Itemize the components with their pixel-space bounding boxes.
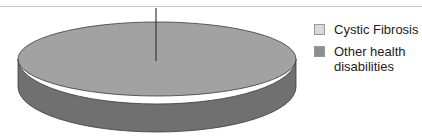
legend-swatch-icon: [314, 24, 325, 35]
legend-label: Other health disabilities: [334, 44, 422, 74]
legend-item-cystic-fibrosis: Cystic Fibrosis: [314, 22, 422, 37]
pie-slice-top-other: [18, 22, 296, 96]
legend-swatch-icon: [314, 46, 325, 57]
pie-chart: [0, 0, 300, 136]
legend: Cystic Fibrosis Other health disabilitie…: [314, 22, 422, 81]
legend-label: Cystic Fibrosis: [334, 22, 419, 37]
pie-3d-graphic: [0, 0, 300, 136]
legend-item-other-health-disabilities: Other health disabilities: [314, 44, 422, 74]
